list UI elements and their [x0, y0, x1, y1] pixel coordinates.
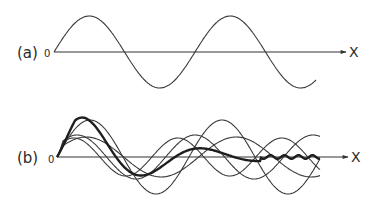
panel-b-wave-packet [57, 118, 320, 176]
panel-b-label: (b) [17, 149, 38, 167]
panel-a-origin-label: 0 [44, 48, 50, 59]
panel-b: (b) 0 X [17, 118, 361, 195]
panel-a-x-axis-label: X [349, 44, 359, 60]
panel-b-x-axis-label: X [351, 149, 361, 165]
wave-superposition-figure: (a) 0 X (b) 0 X [0, 0, 375, 204]
panel-a: (a) 0 X [17, 16, 359, 88]
superposition-wave-packet [57, 118, 320, 176]
panel-b-origin-label: 0 [48, 154, 54, 165]
panel-a-label: (a) [17, 44, 38, 62]
